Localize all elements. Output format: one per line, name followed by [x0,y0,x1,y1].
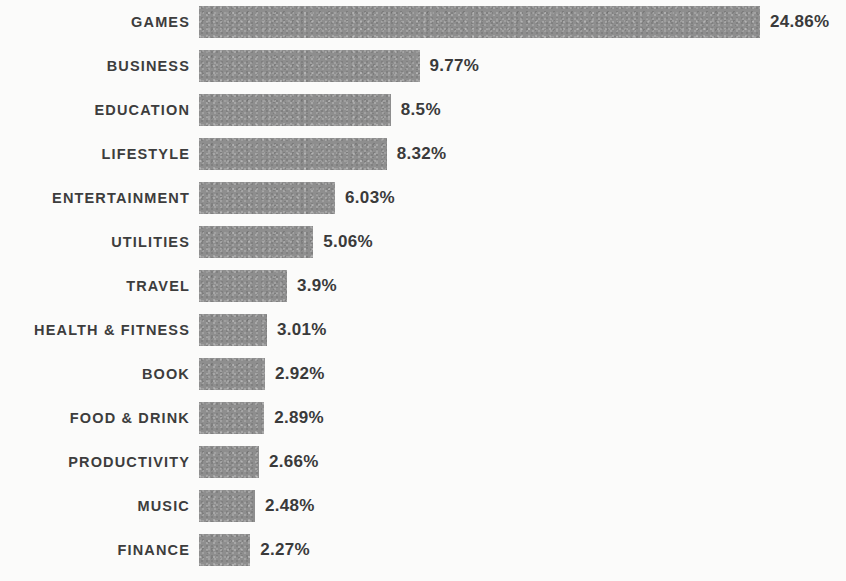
bar-row: EDUCATION8.5% [0,94,846,138]
bar-value-label: 6.03% [345,182,395,214]
bar-track: 24.86% [199,6,846,38]
bar-value-label: 2.92% [275,358,325,390]
bar-row: BOOK2.92% [0,358,846,402]
bar [199,138,387,170]
bar-chart: GAMES24.86%BUSINESS9.77%EDUCATION8.5%LIF… [0,0,846,581]
bar [199,402,264,434]
bar-value-label: 2.66% [269,446,319,478]
bar-value-label: 3.01% [277,314,327,346]
bar-rows-container: GAMES24.86%BUSINESS9.77%EDUCATION8.5%LIF… [0,6,846,578]
bar-value-label: 2.27% [260,534,310,566]
bar-track: 8.32% [199,138,846,170]
bar [199,226,313,258]
bar-track: 3.01% [199,314,846,346]
bar-row: PRODUCTIVITY2.66% [0,446,846,490]
category-label: TRAVEL [0,270,190,302]
category-label: HEALTH & FITNESS [0,314,190,346]
bar-row: HEALTH & FITNESS3.01% [0,314,846,358]
bar-track: 5.06% [199,226,846,258]
bar-value-label: 2.48% [265,490,315,522]
category-label: FOOD & DRINK [0,402,190,434]
category-label: EDUCATION [0,94,190,126]
bar-track: 2.66% [199,446,846,478]
bar [199,94,391,126]
bar-track: 2.89% [199,402,846,434]
bar-row: TRAVEL3.9% [0,270,846,314]
bar [199,490,255,522]
category-label: LIFESTYLE [0,138,190,170]
bar-value-label: 24.86% [770,6,829,38]
bar-row: UTILITIES5.06% [0,226,846,270]
bar-track: 2.27% [199,534,846,566]
category-label: ENTERTAINMENT [0,182,190,214]
bar-row: FOOD & DRINK2.89% [0,402,846,446]
bar-value-label: 3.9% [297,270,337,302]
bar-value-label: 5.06% [323,226,373,258]
category-label: UTILITIES [0,226,190,258]
category-label: PRODUCTIVITY [0,446,190,478]
bar [199,6,760,38]
bar-value-label: 9.77% [430,50,480,82]
bar [199,314,267,346]
bar-track: 3.9% [199,270,846,302]
bar [199,182,335,214]
bar-row: FINANCE2.27% [0,534,846,578]
category-label: FINANCE [0,534,190,566]
bar-row: GAMES24.86% [0,6,846,50]
bar [199,446,259,478]
bar-track: 8.5% [199,94,846,126]
bar-row: MUSIC2.48% [0,490,846,534]
category-label: BUSINESS [0,50,190,82]
bar-value-label: 8.32% [397,138,447,170]
bar-track: 6.03% [199,182,846,214]
bar [199,358,265,390]
bar [199,270,287,302]
bar-track: 2.92% [199,358,846,390]
bar [199,50,420,82]
bar-track: 9.77% [199,50,846,82]
bar-track: 2.48% [199,490,846,522]
category-label: BOOK [0,358,190,390]
bar-value-label: 8.5% [401,94,441,126]
category-label: GAMES [0,6,190,38]
bar-value-label: 2.89% [274,402,324,434]
bar-row: BUSINESS9.77% [0,50,846,94]
bar [199,534,250,566]
bar-row: LIFESTYLE8.32% [0,138,846,182]
category-label: MUSIC [0,490,190,522]
bar-row: ENTERTAINMENT6.03% [0,182,846,226]
